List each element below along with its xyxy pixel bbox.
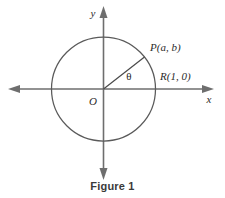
y-axis-arrow-down: [100, 168, 108, 180]
figure-caption: Figure 1: [0, 180, 225, 192]
y-axis-arrow-up: [100, 6, 108, 18]
origin-label: O: [89, 95, 97, 107]
theta-label: θ: [126, 70, 131, 82]
x-axis: [8, 85, 214, 93]
unit-circle-diagram: y x O θ P(a, b) R(1, 0): [0, 0, 225, 198]
point-r-label: R(1, 0): [159, 70, 191, 83]
x-axis-arrow-left: [8, 85, 20, 93]
x-axis-arrow-right: [202, 85, 214, 93]
radius-segment-op: [104, 57, 145, 89]
point-p-label: P(a, b): [149, 41, 181, 54]
y-axis: [100, 6, 108, 180]
x-axis-label: x: [206, 93, 212, 105]
y-axis-label: y: [90, 7, 96, 19]
figure-container: y x O θ P(a, b) R(1, 0) Figure 1: [0, 0, 225, 198]
